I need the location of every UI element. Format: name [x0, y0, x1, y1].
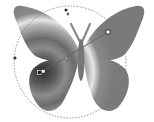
canvas-svg [0, 0, 154, 122]
butterfly-body [78, 39, 85, 81]
gradient-center-handle[interactable] [38, 71, 42, 75]
gradient-midpoint[interactable] [65, 57, 67, 59]
gradient-rotation-handle-secondary[interactable] [67, 13, 70, 16]
gradient-end-handle[interactable] [106, 30, 110, 34]
gradient-focal-handle[interactable] [42, 70, 46, 74]
butterfly-shape[interactable] [14, 6, 145, 111]
upper-right-wing[interactable] [84, 6, 144, 61]
drawing-canvas[interactable] [0, 0, 154, 122]
gradient-rotation-handle[interactable] [64, 8, 67, 11]
gradient-side-handle[interactable] [14, 57, 17, 60]
lower-right-wing[interactable] [84, 56, 129, 111]
